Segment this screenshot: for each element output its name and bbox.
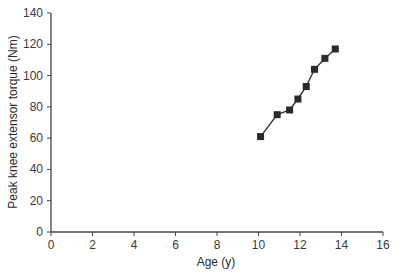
x-tick-label: 4 bbox=[131, 238, 138, 252]
y-tick-label: 120 bbox=[23, 37, 43, 51]
x-tick-label: 2 bbox=[89, 238, 96, 252]
y-axis-ticks: 020406080100120140 bbox=[23, 6, 51, 239]
y-tick-label: 20 bbox=[30, 194, 44, 208]
chart-container: 020406080100120140 0246810121416 Age (y)… bbox=[0, 0, 396, 275]
x-tick-label: 14 bbox=[335, 238, 349, 252]
y-tick-label: 80 bbox=[30, 100, 44, 114]
data-point-marker bbox=[286, 106, 293, 113]
data-point-marker bbox=[321, 55, 328, 62]
y-tick-label: 40 bbox=[30, 162, 44, 176]
data-point-marker bbox=[311, 66, 318, 73]
x-tick-label: 6 bbox=[172, 238, 179, 252]
data-point-marker bbox=[332, 45, 339, 52]
data-series bbox=[257, 45, 339, 140]
x-axis-title: Age (y) bbox=[197, 255, 236, 269]
x-tick-label: 10 bbox=[252, 238, 266, 252]
y-axis-title: Peak knee extensor torque (Nm) bbox=[6, 35, 20, 208]
x-tick-label: 12 bbox=[293, 238, 307, 252]
y-tick-label: 100 bbox=[23, 69, 43, 83]
x-tick-label: 8 bbox=[214, 238, 221, 252]
y-tick-label: 60 bbox=[30, 131, 44, 145]
x-tick-label: 0 bbox=[48, 238, 55, 252]
y-tick-label: 0 bbox=[36, 225, 43, 239]
data-point-marker bbox=[257, 133, 264, 140]
data-point-marker bbox=[274, 111, 281, 118]
data-point-marker bbox=[303, 83, 310, 90]
line-chart: 020406080100120140 0246810121416 Age (y)… bbox=[0, 0, 396, 275]
y-tick-label: 140 bbox=[23, 6, 43, 20]
data-point-marker bbox=[294, 96, 301, 103]
series-line bbox=[261, 49, 336, 137]
x-axis-ticks: 0246810121416 bbox=[48, 232, 390, 252]
x-tick-label: 16 bbox=[376, 238, 390, 252]
